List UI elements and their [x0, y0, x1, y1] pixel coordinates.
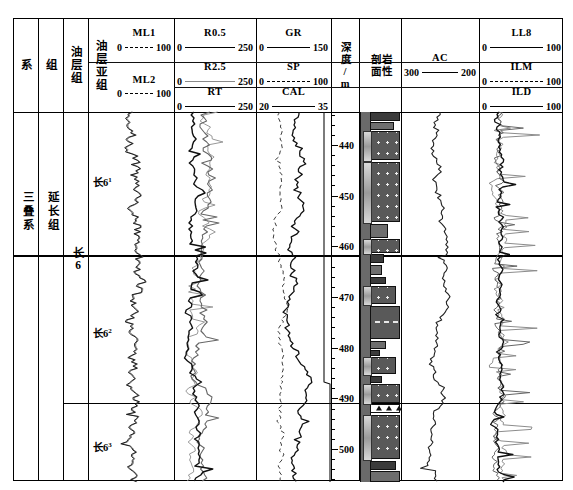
log-curve-ild: [491, 112, 516, 482]
log-curve-ll8: [489, 112, 540, 480]
curve-plot-induction: [14, 19, 564, 482]
well-log-figure: 系 组 油层组 油层亚组 ML1 0 100 ML2 0 100: [0, 0, 573, 490]
log-grid-frame: 系 组 油层组 油层亚组 ML1 0 100 ML2 0 100: [13, 18, 563, 481]
